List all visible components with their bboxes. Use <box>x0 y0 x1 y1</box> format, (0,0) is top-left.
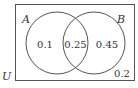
a-only-value: 0.1 <box>37 39 53 50</box>
outside-value: 0.2 <box>114 68 130 79</box>
universe-label: U <box>2 70 12 83</box>
b-only-value: 0.45 <box>96 39 118 50</box>
venn-diagram: A B U 0.1 0.25 0.45 0.2 <box>0 0 138 88</box>
set-b-label: B <box>116 13 125 26</box>
intersection-value: 0.25 <box>64 39 86 50</box>
set-a-label: A <box>21 13 30 26</box>
